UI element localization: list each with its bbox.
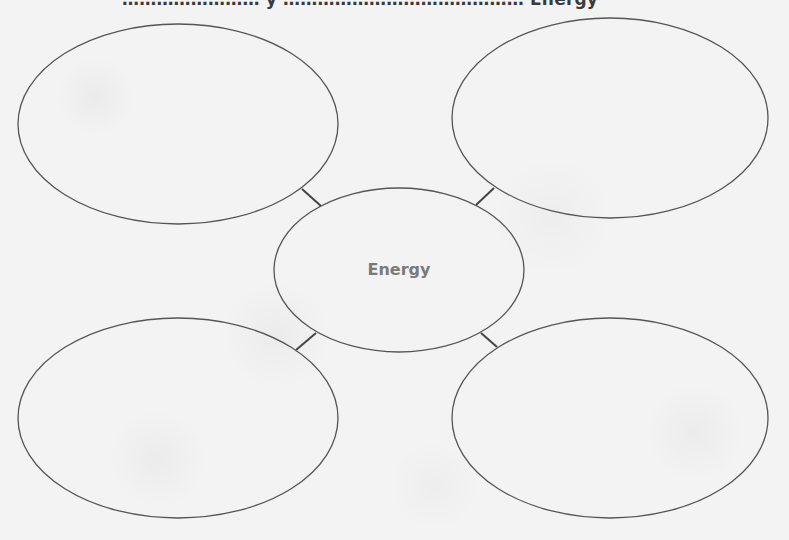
center-bubble-label: Energy <box>274 258 524 282</box>
bubble-top-left-write-area[interactable] <box>18 24 338 224</box>
connector-top-left <box>302 189 321 206</box>
connector-bottom-right <box>481 333 497 347</box>
bubble-bottom-right-write-area[interactable] <box>452 318 768 518</box>
bubble-top-right-write-area[interactable] <box>452 18 768 218</box>
bubble-bottom-left-write-area[interactable] <box>18 318 338 518</box>
connector-top-right <box>476 188 494 205</box>
connector-bottom-left <box>296 333 316 350</box>
energy-bubble-map: Energy <box>0 0 789 540</box>
